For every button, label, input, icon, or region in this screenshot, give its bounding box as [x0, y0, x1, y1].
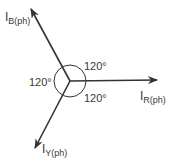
label-sub: Y(ph)	[45, 148, 67, 158]
angle-label-lower-right: 120°	[84, 93, 107, 104]
phasor-b-arrow	[31, 9, 70, 81]
label-sub: R(ph)	[143, 95, 166, 105]
phasor-y-arrow	[35, 81, 70, 148]
label-i-y-ph: IY(ph)	[42, 143, 67, 158]
angle-label-upper-right: 120°	[84, 61, 107, 72]
label-sub: B(ph)	[8, 16, 30, 26]
phasor-r-arrow	[70, 80, 157, 81]
label-i-r-ph: IR(ph)	[140, 90, 166, 105]
label-i-b-ph: IB(ph)	[5, 11, 30, 26]
angle-label-left: 120°	[29, 77, 52, 88]
